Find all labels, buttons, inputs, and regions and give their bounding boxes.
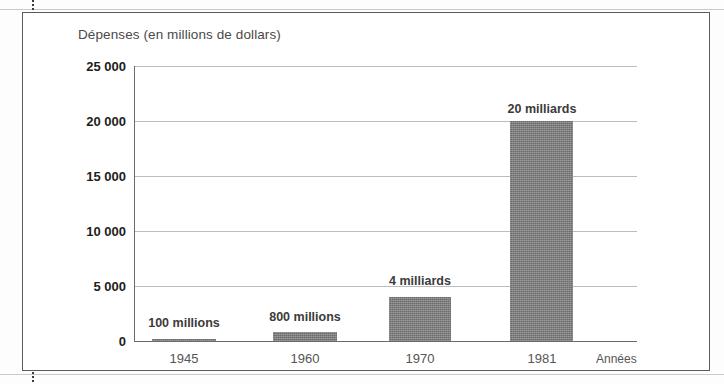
bar-1960 xyxy=(273,332,337,341)
bar-value-label-1981: 20 milliards xyxy=(508,102,577,116)
y-tick-label: 5 000 xyxy=(93,279,126,294)
x-tick-label-1970: 1970 xyxy=(406,351,435,366)
y-axis-tick-labels: 0 5 000 10 000 15 000 20 000 25 000 xyxy=(60,66,126,341)
bar-1981 xyxy=(510,121,573,341)
x-tick-label-1945: 1945 xyxy=(170,351,199,366)
y-axis-line xyxy=(134,66,135,342)
y-tick-label: 20 000 xyxy=(86,114,126,129)
registration-rule-top xyxy=(0,9,724,10)
bar-value-label-1970: 4 milliards xyxy=(389,274,451,288)
plot-area: 100 millions 800 millions 4 milliards 20… xyxy=(134,66,637,341)
plot-inner: 100 millions 800 millions 4 milliards 20… xyxy=(134,66,637,341)
registration-mark-bottom xyxy=(32,372,34,384)
x-tick-label-1960: 1960 xyxy=(291,351,320,366)
bar-value-label-1960: 800 millions xyxy=(269,310,341,324)
y-tick-label: 25 000 xyxy=(86,59,126,74)
y-tick-label: 15 000 xyxy=(86,169,126,184)
bar-value-label-1945: 100 millions xyxy=(148,316,220,330)
y-tick-label: 10 000 xyxy=(86,224,126,239)
x-axis-title: Années xyxy=(596,352,637,366)
y-tick-label: 0 xyxy=(119,334,126,349)
chart-title: Dépenses (en millions de dollars) xyxy=(78,27,281,42)
bar-1945 xyxy=(152,339,216,341)
registration-rule-bottom xyxy=(0,374,724,375)
x-tick-label-1981: 1981 xyxy=(528,351,557,366)
bar-1970 xyxy=(389,297,451,341)
x-axis-line xyxy=(134,341,637,342)
registration-mark-top xyxy=(32,0,34,11)
gridline-25000 xyxy=(134,66,637,67)
